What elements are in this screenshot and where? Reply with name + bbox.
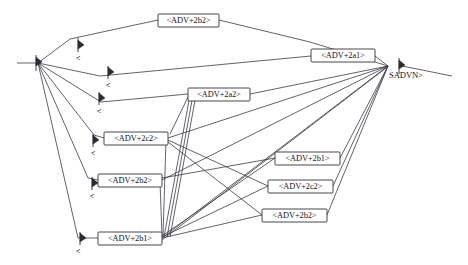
- edge-start-to-a2: [38, 63, 188, 102]
- edge-group-to-end: [162, 20, 452, 240]
- node-a2[interactable]: <ADV+2a2>: [188, 88, 250, 101]
- edge-start-to-c2left: [38, 63, 104, 138]
- node-c2-left[interactable]: <ADV+2c2>: [104, 132, 168, 145]
- chevron-glyph: <: [106, 81, 111, 90]
- lattice-diagram: <ADV+2b2> <ADV+2a1> <ADV+2a2> <ADV+2c2> …: [0, 0, 468, 265]
- chevron-glyph: <: [91, 149, 96, 158]
- edge-start-to-b2left: [38, 63, 98, 180]
- edge-c2right-to-end: [333, 66, 388, 186]
- node-label: <ADV+2a1>: [321, 51, 365, 60]
- node-label: <ADV+2b1>: [108, 234, 152, 243]
- end-state-label: SADVN>: [389, 70, 423, 80]
- edge-start-to-top: [38, 20, 158, 63]
- node-label: <ADV+2c2>: [114, 134, 158, 143]
- edge-a1-to-end: [375, 56, 388, 66]
- edge-c2left-to-c2right: [168, 140, 268, 186]
- edge-a2-to-b1left-1: [164, 95, 190, 237]
- arrow-marker-group: [36, 38, 405, 245]
- chevron-glyph: <: [76, 247, 81, 256]
- chevron-glyph: <: [90, 192, 95, 201]
- node-a1[interactable]: <ADV+2a1>: [311, 49, 375, 62]
- node-b2-left[interactable]: <ADV+2b2>: [98, 174, 162, 187]
- node-label: <ADV+2c2>: [279, 182, 323, 191]
- arrow-marker-top-branch: [78, 38, 84, 52]
- node-label: <ADV+2b1>: [286, 154, 330, 163]
- diagram-canvas: <ADV+2b2> <ADV+2a1> <ADV+2a2> <ADV+2c2> …: [0, 0, 468, 265]
- node-label: <ADV+2b2>: [108, 176, 152, 185]
- chevron-glyph: <: [97, 107, 102, 116]
- edge-b1right-to-end: [340, 66, 388, 158]
- edge-c2left-to-b1left: [163, 140, 166, 236]
- node-label: <ADV+2b2>: [167, 16, 211, 25]
- edge-start-to-b1left: [38, 63, 98, 238]
- node-b1-left[interactable]: <ADV+2b1>: [98, 232, 162, 245]
- node-b2-right[interactable]: <ADV+2b2>: [262, 209, 327, 222]
- arrow-marker-b2left-branch: [92, 177, 98, 190]
- chevron-glyph: <: [76, 54, 81, 63]
- node-top[interactable]: <ADV+2b2>: [158, 14, 219, 27]
- edge-c2left-to-end: [168, 66, 388, 138]
- edge-a2-to-end: [250, 66, 388, 94]
- edge-group-crossing: [160, 140, 275, 238]
- edge-b2left-to-b1right: [162, 158, 275, 178]
- node-label: <ADV+2a2>: [197, 90, 241, 99]
- edge-b2left-to-b1left: [160, 182, 162, 236]
- node-c2-right[interactable]: <ADV+2c2>: [268, 180, 333, 193]
- edge-b2right-to-end: [327, 66, 388, 215]
- arrow-marker-a1-branch: [108, 66, 114, 79]
- arrow-marker-b1left-branch: [80, 232, 86, 245]
- node-label: <ADV+2b2>: [273, 211, 317, 220]
- node-b1-right[interactable]: <ADV+2b1>: [275, 152, 340, 165]
- arrow-marker-a2-branch: [99, 92, 105, 105]
